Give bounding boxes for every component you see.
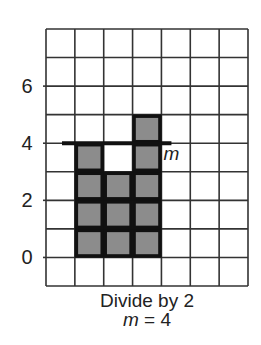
y-label-2: 2 <box>12 190 42 210</box>
caption-result: m = 4 <box>46 310 248 330</box>
mean-line-label: m <box>163 143 179 164</box>
y-label-0: 0 <box>12 247 42 267</box>
bar-unit-square <box>105 202 131 228</box>
bar-unit-square <box>134 202 160 228</box>
bar-unit-square <box>76 173 102 199</box>
bar-unit-square <box>76 202 102 228</box>
caption-value: = 4 <box>139 309 171 330</box>
bar-unit-square <box>105 230 131 256</box>
bar-unit-square <box>134 116 160 142</box>
bar-unit-square <box>134 145 160 171</box>
bar-unit-square <box>134 230 160 256</box>
bar-unit-square <box>76 145 102 171</box>
y-label-6: 6 <box>12 76 42 96</box>
y-label-4: 4 <box>12 133 42 153</box>
bar-unit-square <box>76 230 102 256</box>
bar-unit-square <box>134 173 160 199</box>
caption-variable: m <box>123 309 139 330</box>
bar-unit-square <box>105 173 131 199</box>
caption-title: Divide by 2 <box>46 291 248 311</box>
